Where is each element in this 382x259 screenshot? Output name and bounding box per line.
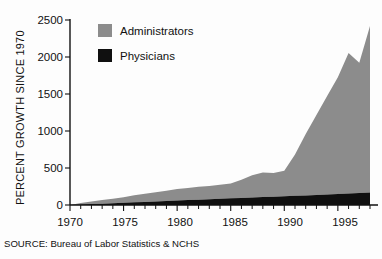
growth-area-chart: PERCENT GROWTH SINCE 1970 2500 2000 1500… (0, 0, 382, 259)
chart-figure: PERCENT GROWTH SINCE 1970 2500 2000 1500… (0, 0, 382, 259)
y-tick-label: 1000 (37, 125, 63, 137)
legend-label-administrators: Administrators (120, 25, 194, 37)
legend-swatch-administrators (98, 24, 112, 37)
x-tick-label: 1980 (167, 216, 193, 228)
y-tick-label: 1500 (37, 88, 63, 100)
x-tick-label: 1975 (112, 216, 138, 228)
x-tick-label: 1970 (57, 216, 83, 228)
legend-label-physicians: Physicians (120, 50, 175, 62)
y-tick-label: 500 (44, 162, 63, 174)
y-tick-label: 2000 (37, 51, 63, 63)
x-tick-label: 1985 (222, 216, 248, 228)
y-tick-label: 2500 (37, 14, 63, 26)
x-tick-label: 1995 (332, 216, 358, 228)
y-tick-label: 0 (57, 199, 63, 211)
source-note: SOURCE: Bureau of Labor Statistics & NCH… (4, 238, 199, 249)
y-axis-title: PERCENT GROWTH SINCE 1970 (14, 30, 26, 205)
x-tick-label: 1990 (277, 216, 303, 228)
legend-swatch-physicians (98, 49, 112, 62)
